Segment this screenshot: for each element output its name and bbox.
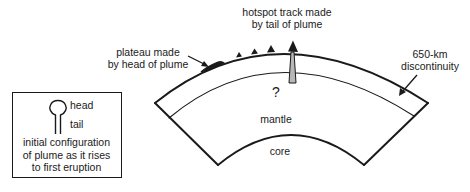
discontinuity-label-line1: 650-km	[392, 48, 468, 60]
discontinuity-label: 650-km discontinuity	[392, 48, 468, 72]
legend-caption-line1: initial configuration	[13, 136, 120, 149]
volcano-icon	[267, 45, 275, 53]
volcano-icon	[251, 49, 258, 55]
plume-tail-conduit	[289, 52, 296, 83]
plume-shape-icon	[47, 99, 69, 135]
arrowhead-icon	[201, 61, 209, 67]
discontinuity-arrow	[399, 75, 417, 96]
right-edge	[364, 103, 428, 165]
hotspot-track-label-line1: hotspot track made	[233, 6, 341, 18]
legend-caption-line3: to first eruption	[13, 161, 120, 174]
legend-box: head tail initial configuration of plume…	[12, 92, 122, 178]
legend-tail-label: tail	[70, 118, 83, 130]
hotspot-track-label-line2: by tail of plume	[233, 18, 341, 30]
core-label: core	[265, 145, 295, 157]
question-mark-label: ?	[267, 84, 285, 100]
volcano-icon	[288, 41, 298, 53]
volcano-icon	[236, 52, 242, 58]
legend-caption: initial configuration of plume as it ris…	[13, 136, 120, 174]
discontinuity-label-line2: discontinuity	[392, 60, 468, 72]
hotspot-track-label: hotspot track made by tail of plume	[233, 6, 341, 30]
legend-head-label: head	[70, 99, 93, 111]
plateau-label-line1: plateau made	[100, 46, 196, 58]
plateau-label: plateau made by head of plume	[100, 46, 196, 70]
legend-caption-line2: of plume as it rises	[13, 149, 120, 162]
left-edge	[155, 103, 218, 165]
plateau-label-line2: by head of plume	[100, 58, 196, 70]
mantle-label: mantle	[251, 113, 301, 125]
